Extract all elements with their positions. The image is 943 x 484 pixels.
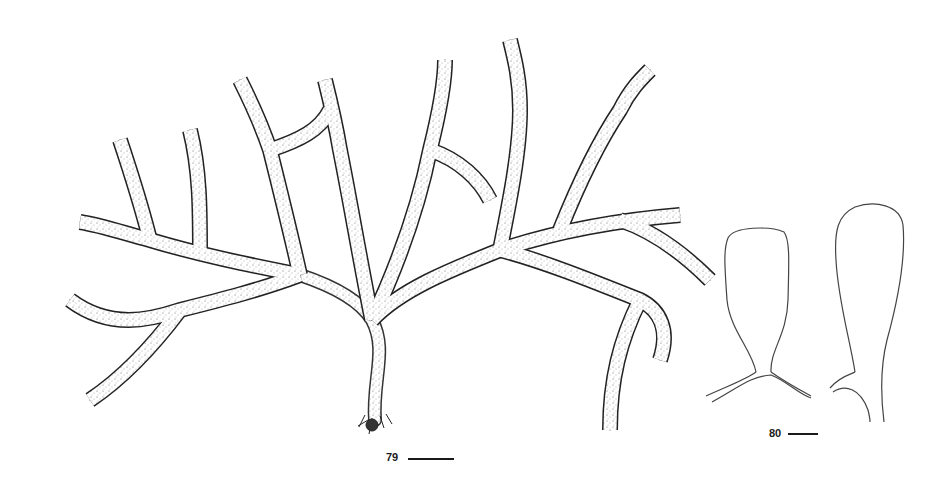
scale-bar-79: [408, 458, 454, 460]
illustration-plate: 79 80: [0, 0, 943, 484]
scale-bar-80: [788, 433, 818, 435]
figure-80-vesicle-outlines: [0, 0, 943, 484]
figure-number-80: 80: [769, 427, 781, 439]
figure-number-79: 79: [386, 451, 398, 463]
